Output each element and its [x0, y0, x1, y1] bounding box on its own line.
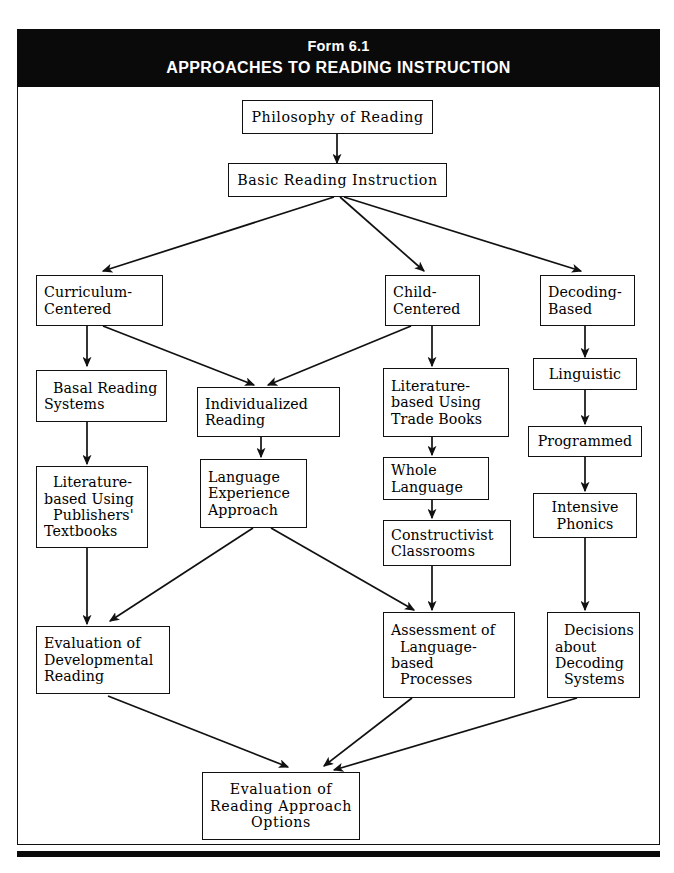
- node-line: Constructivist: [391, 527, 494, 543]
- node-line: Experience: [208, 485, 290, 501]
- node-programmed[interactable]: Programmed: [528, 426, 642, 457]
- node-constructivist-classrooms[interactable]: Constructivist Classrooms: [383, 520, 511, 566]
- node-basic-reading-instruction[interactable]: Basic Reading Instruction: [228, 163, 447, 197]
- node-line: Centered: [393, 301, 461, 317]
- bottom-rule: [17, 851, 660, 857]
- node-line: Decoding-: [548, 284, 622, 300]
- node-individualized-reading[interactable]: Individualized Reading: [197, 387, 340, 437]
- node-line: Classrooms: [391, 543, 475, 559]
- node-line: Trade Books: [391, 411, 482, 427]
- node-line: based Using: [44, 491, 134, 507]
- node-line: Options: [251, 814, 311, 830]
- node-language-experience-approach[interactable]: Language Experience Approach: [200, 459, 307, 528]
- node-line: Publishers': [44, 507, 134, 523]
- node-line: Basal Reading: [44, 380, 157, 396]
- node-line: Assessment of: [391, 622, 495, 638]
- node-intensive-phonics[interactable]: Intensive Phonics: [533, 493, 637, 538]
- node-assessment-of-language-based-processes[interactable]: Assessment of Language- based Processes: [383, 612, 515, 698]
- node-line: Centered: [44, 301, 112, 317]
- node-line: Reading Approach: [210, 798, 352, 814]
- node-line: Processes: [391, 671, 472, 687]
- node-literature-based-trade-books[interactable]: Literature- based Using Trade Books: [383, 368, 509, 437]
- node-line: Language-: [391, 639, 477, 655]
- node-line: based: [391, 655, 434, 671]
- node-basal-reading-systems[interactable]: Basal Reading Systems: [36, 370, 167, 422]
- node-line: Evaluation of: [230, 781, 332, 797]
- node-line: Programmed: [538, 433, 633, 449]
- node-line: Child-: [393, 284, 437, 300]
- node-line: Language: [208, 469, 280, 485]
- node-line: Decisions: [555, 622, 634, 638]
- node-line: Curriculum-: [44, 284, 132, 300]
- node-decoding-based[interactable]: Decoding- Based: [540, 275, 635, 326]
- node-philosophy-of-reading[interactable]: Philosophy of Reading: [242, 100, 433, 134]
- node-line: Systems: [555, 671, 625, 687]
- form-number: Form 6.1: [307, 39, 369, 55]
- node-line: Decoding: [555, 655, 624, 671]
- node-linguistic[interactable]: Linguistic: [533, 358, 637, 390]
- node-line: Linguistic: [549, 366, 621, 382]
- node-curriculum-centered[interactable]: Curriculum- Centered: [36, 275, 163, 326]
- node-line: Whole: [391, 462, 437, 478]
- node-line: Philosophy of Reading: [251, 109, 423, 125]
- form-page: Form 6.1 APPROACHES TO READING INSTRUCTI…: [0, 0, 674, 873]
- node-line: Developmental: [44, 652, 153, 668]
- node-line: Literature-: [391, 378, 470, 394]
- node-evaluation-of-developmental-reading[interactable]: Evaluation of Developmental Reading: [36, 626, 170, 694]
- node-decisions-about-decoding-systems[interactable]: Decisions about Decoding Systems: [547, 612, 640, 698]
- node-line: Evaluation of: [44, 635, 140, 651]
- node-line: Intensive: [551, 499, 618, 515]
- node-line: Reading: [44, 668, 104, 684]
- node-line: about: [555, 639, 596, 655]
- node-line: Approach: [208, 502, 278, 518]
- node-whole-language[interactable]: Whole Language: [383, 457, 489, 500]
- node-line: Basic Reading Instruction: [237, 172, 437, 188]
- node-line: based Using: [391, 394, 481, 410]
- form-title: APPROACHES TO READING INSTRUCTION: [166, 59, 510, 77]
- node-line: Language: [391, 479, 463, 495]
- node-evaluation-of-reading-approach-options[interactable]: Evaluation of Reading Approach Options: [202, 772, 360, 840]
- node-line: Individualized: [205, 396, 308, 412]
- node-literature-based-publishers-textbooks[interactable]: Literature- based Using Publishers' Text…: [36, 466, 148, 548]
- form-header-banner: Form 6.1 APPROACHES TO READING INSTRUCTI…: [17, 29, 660, 87]
- node-line: Literature-: [44, 474, 132, 490]
- node-line: Textbooks: [44, 523, 117, 539]
- node-line: Systems: [44, 396, 105, 412]
- node-child-centered[interactable]: Child- Centered: [385, 275, 480, 326]
- node-line: Based: [548, 301, 592, 317]
- node-line: Reading: [205, 412, 265, 428]
- node-line: Phonics: [557, 516, 614, 532]
